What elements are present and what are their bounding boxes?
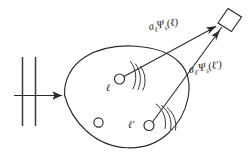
field-argument-ell: (ℓ) — [166, 16, 179, 29]
scatterer-ell-prime — [144, 104, 176, 131]
scatter-ray-ell-arrowhead — [206, 26, 217, 34]
incident-wave-arrow — [14, 91, 62, 100]
scatterer-ell-circle — [115, 74, 125, 84]
site-label-ell-prime: ℓ′ — [128, 120, 134, 130]
radiated-wave-arcs-ell-prime — [156, 104, 176, 130]
incident-grating — [23, 57, 36, 126]
scatterer-ell — [115, 62, 146, 91]
field-argument-ell-prime: (ℓ′) — [207, 58, 222, 71]
site-label-ell: ℓ — [106, 83, 110, 93]
scattering-diagram-figure: aℓΨs(ℓ) aℓ′Ψs(ℓ′) ℓ ℓ′ — [0, 0, 250, 159]
wave-arc-ellp-2 — [162, 106, 172, 130]
wave-arc-ell-1 — [131, 62, 136, 90]
wave-arc-ell-3 — [141, 67, 146, 91]
scatter-ray-ell-prime — [153, 30, 221, 122]
diagram-canvas — [0, 0, 250, 159]
scatterer-unlabeled — [94, 118, 103, 127]
scatter-ray-ell-prime-line — [153, 31, 220, 123]
detector — [217, 9, 242, 35]
detector-stem — [217, 28, 222, 35]
